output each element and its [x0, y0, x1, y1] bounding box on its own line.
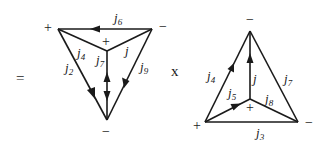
- label-j7: j7: [282, 71, 293, 88]
- sign-plus: +: [193, 118, 201, 133]
- right-diagram: − + − + j4 j j7 j5 j8 j3: [193, 12, 313, 142]
- arrow-right-icon: [231, 104, 242, 111]
- edge-j5: [205, 99, 250, 122]
- arrow-down-icon: [104, 91, 111, 101]
- sign-minus: −: [246, 12, 254, 27]
- edge-j: [107, 29, 152, 51]
- left-diagram: + − + − j6 j4 j j2 j7 j9: [44, 10, 167, 139]
- label-j7: j7: [94, 52, 105, 69]
- arrow-up-icon: [247, 53, 254, 63]
- label-j: j: [251, 71, 257, 86]
- label-j6: j6: [112, 10, 123, 27]
- sign-plus: +: [102, 34, 110, 49]
- label-j: j: [123, 43, 129, 58]
- edge-j8: [250, 99, 298, 122]
- sign-plus: +: [44, 20, 52, 35]
- label-j3: j3: [254, 125, 265, 142]
- label-j4: j4: [205, 68, 216, 85]
- equals-operator: =: [16, 70, 24, 86]
- label-j4: j4: [75, 45, 86, 62]
- arrow-down-icon: [87, 87, 95, 99]
- label-j8: j8: [263, 91, 274, 108]
- label-j9: j9: [138, 59, 149, 76]
- sign-minus: −: [159, 19, 167, 34]
- edge-j7: [250, 31, 298, 122]
- arrow-up-icon: [104, 72, 111, 82]
- sign-minus: −: [102, 124, 110, 139]
- arrow-left-icon: [90, 26, 100, 33]
- sign-minus: −: [305, 115, 313, 130]
- label-j5: j5: [226, 85, 237, 102]
- sign-plus: +: [246, 100, 254, 115]
- diagram-canvas: = + − + − j6 j4 j j2 j7 j9 x: [0, 0, 330, 155]
- times-operator: x: [171, 63, 179, 79]
- label-j2: j2: [63, 60, 74, 77]
